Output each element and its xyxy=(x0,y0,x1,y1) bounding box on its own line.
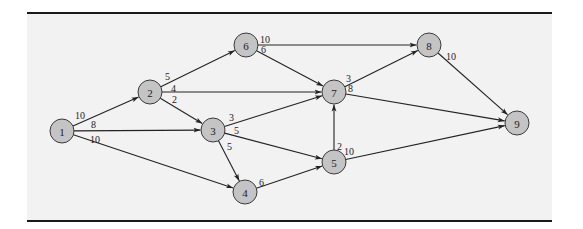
edge-5-9 xyxy=(346,126,505,160)
node-2: 2 xyxy=(138,80,162,104)
node-5: 5 xyxy=(322,150,346,174)
edge-weight-8-9: 10 xyxy=(446,51,456,62)
edge-weight-4-5: 6 xyxy=(259,177,264,188)
edge-weight-6-7: 6 xyxy=(261,44,266,55)
edge-weight-1-4: 10 xyxy=(90,134,100,145)
edge-1-3 xyxy=(74,130,201,131)
edge-4-5 xyxy=(256,166,322,188)
edge-6-7 xyxy=(257,51,323,86)
node-label: 6 xyxy=(243,40,249,52)
edge-3-7 xyxy=(224,96,322,127)
edge-weight-2-3: 2 xyxy=(172,94,177,105)
node-label: 4 xyxy=(242,187,248,199)
node-label: 7 xyxy=(331,87,337,99)
node-8: 8 xyxy=(417,33,441,57)
edge-weight-2-7: 4 xyxy=(171,83,176,94)
node-9: 9 xyxy=(505,111,529,135)
edge-7-8 xyxy=(345,51,418,87)
edge-weight-3-4: 5 xyxy=(227,141,232,152)
node-4: 4 xyxy=(233,180,257,204)
edges-group: 1081054235562101063810 xyxy=(73,34,508,188)
node-7: 7 xyxy=(322,80,346,104)
edge-8-9 xyxy=(438,53,508,115)
node-label: 2 xyxy=(147,87,153,99)
edge-weight-3-5: 5 xyxy=(234,125,239,136)
node-label: 3 xyxy=(210,125,216,137)
edge-weight-3-7: 3 xyxy=(229,112,234,123)
node-6: 6 xyxy=(234,33,258,57)
node-label: 5 xyxy=(331,157,337,169)
edge-2-6 xyxy=(161,51,235,87)
edge-weight-2-6: 5 xyxy=(165,71,170,82)
edge-2-3 xyxy=(160,98,202,123)
edge-weight-1-3: 8 xyxy=(91,119,96,130)
edge-7-9 xyxy=(346,94,505,121)
edge-weight-7-9: 8 xyxy=(348,83,353,94)
nodes-group: 123456789 xyxy=(50,33,529,204)
edge-weight-5-9: 10 xyxy=(344,146,354,157)
node-1: 1 xyxy=(50,119,74,143)
node-label: 8 xyxy=(426,40,432,52)
edge-3-5 xyxy=(225,133,322,159)
network-diagram: 1081054235562101063810 123456789 xyxy=(0,0,583,229)
edge-weight-1-2: 10 xyxy=(75,110,85,121)
node-label: 9 xyxy=(514,118,520,130)
node-label: 1 xyxy=(59,126,65,138)
node-3: 3 xyxy=(201,118,225,142)
